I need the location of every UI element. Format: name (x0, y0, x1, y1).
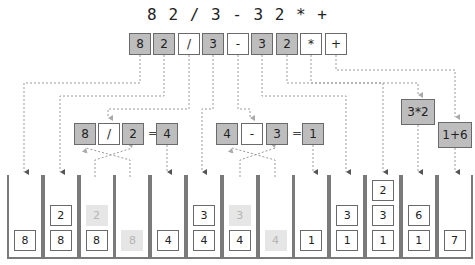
div-right-operand: 2 (122, 123, 144, 145)
stack-state-1: 8 (7, 175, 43, 259)
stack-state-4: 8 (114, 175, 150, 259)
stack-state-3: 82 (79, 175, 115, 259)
stack-cell: 4 (229, 230, 251, 251)
stack-state-2: 82 (43, 175, 79, 259)
stack-cell: 1 (372, 230, 394, 251)
stack-cell: 2 (50, 205, 72, 226)
stack-cell: 8 (14, 230, 36, 251)
stack-cell: 1 (336, 230, 358, 251)
div-result: 4 (156, 123, 178, 145)
stack-state-8: 4 (258, 175, 294, 259)
popped-cell: 8 (121, 230, 143, 251)
sub-left-operand: 4 (216, 123, 238, 145)
stack-state-12: 16 (401, 175, 437, 259)
stack-cell: 3 (372, 205, 394, 226)
stack-cell: 3 (193, 205, 215, 226)
stack-state-6: 43 (186, 175, 222, 259)
stack-cell: 6 (408, 205, 430, 226)
div-operator: / (98, 123, 120, 145)
sub-operator: - (241, 123, 263, 145)
sub-result: 1 (302, 123, 324, 145)
stack-cell: 1 (300, 230, 322, 251)
stack-state-9: 1 (293, 175, 329, 259)
stack-state-13: 7 (437, 175, 473, 259)
stack-cell: 2 (372, 180, 394, 201)
add-expression: 1+6 (438, 122, 472, 148)
stack-state-7: 43 (222, 175, 258, 259)
mul-expression: 3*2 (401, 99, 435, 125)
sub-right-operand: 3 (266, 123, 288, 145)
popped-cell: 3 (229, 205, 251, 226)
stack-state-5: 4 (150, 175, 186, 259)
sub-equals: = (292, 126, 302, 140)
stack-state-11: 132 (365, 175, 401, 259)
stack-cell: 1 (408, 230, 430, 251)
stack-state-10: 13 (329, 175, 365, 259)
popped-cell: 2 (86, 205, 108, 226)
stack-cell: 4 (157, 230, 179, 251)
stack-cell: 4 (193, 230, 215, 251)
stack-cell: 7 (444, 230, 466, 251)
stack-cell: 3 (336, 205, 358, 226)
stack-cell: 8 (86, 230, 108, 251)
stack-cell: 8 (50, 230, 72, 251)
div-left-operand: 8 (74, 123, 96, 145)
popped-cell: 4 (265, 230, 287, 251)
